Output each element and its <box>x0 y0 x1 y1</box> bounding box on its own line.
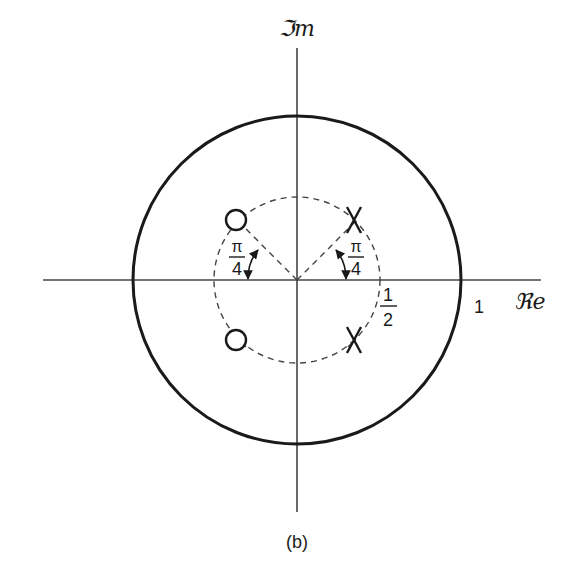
radial-line-left <box>238 221 297 280</box>
half-radius-label: 1 2 <box>380 285 397 330</box>
angle-label-right: π 4 <box>348 238 364 279</box>
radial-line-right <box>297 221 356 280</box>
pole-marker-upper <box>347 207 361 233</box>
unit-circle-label: 1 <box>474 297 484 317</box>
imaginary-axis-label: ℑm <box>279 16 315 41</box>
pole-marker-lower <box>347 327 361 353</box>
svg-text:1: 1 <box>383 285 393 305</box>
svg-text:4: 4 <box>351 259 361 279</box>
pole-zero-diagram: π 4 π 4 1 2 1 ℜe ℑm (b) <box>0 0 579 574</box>
svg-text:2: 2 <box>383 310 393 330</box>
svg-text:π: π <box>350 238 361 255</box>
svg-text:4: 4 <box>232 259 242 279</box>
angle-arc-left <box>248 250 258 279</box>
zero-marker-lower <box>226 330 246 350</box>
angle-label-left: π 4 <box>229 238 245 279</box>
zero-marker-upper <box>226 210 246 230</box>
svg-text:π: π <box>231 238 242 255</box>
figure-caption: (b) <box>286 532 308 552</box>
real-axis-label: ℜe <box>514 289 545 314</box>
angle-arc-right <box>336 250 346 279</box>
